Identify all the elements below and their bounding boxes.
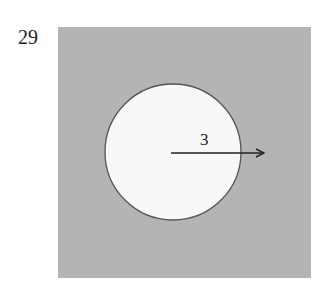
figure: 3: [0, 0, 335, 286]
unshaded-circle: [105, 84, 241, 220]
radius-label: 3: [200, 130, 209, 149]
